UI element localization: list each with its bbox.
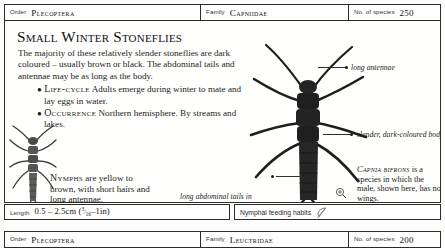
footer-order-cell: Order Plecoptera — [5, 232, 201, 247]
header-order-cell: Order Plecoptera — [5, 5, 201, 20]
family-label: Family — [206, 8, 225, 15]
species-description: Capnia bifrons is a species in which the… — [357, 165, 441, 203]
nymphal-feeding-habits-box: Nymphal feeding habits — [234, 204, 441, 220]
bullet-life-cycle: ● Life-cycle Adults emerge during winter… — [44, 83, 243, 107]
footer-species-count-label: No. of species — [354, 235, 395, 242]
bullet-term-life-cycle: Life-cycle — [44, 83, 90, 94]
leader-dot-tails — [271, 175, 274, 178]
reference-card-page: Order Plecoptera Family Capniidae No. of… — [0, 0, 445, 248]
footer-species-count-value: 200 — [400, 235, 414, 245]
nymph-note: Nymphs are yellow to brown, with short h… — [50, 173, 155, 203]
bullet-list: ● Life-cycle Adults emerge during winter… — [18, 83, 243, 131]
fraction-numerator: 3 — [81, 206, 84, 212]
length-box: Length 0.5 – 2.5cm (3⁄16–1in) — [4, 204, 230, 220]
leader-line-antennae — [318, 67, 346, 68]
header-species-cell: No. of species 250 — [349, 5, 440, 20]
callout-long-antennae: long antennae — [351, 64, 441, 73]
magnifier-icon — [335, 187, 347, 199]
callout-abdominal-tails: long abdominal tails in adults and nymph… — [180, 193, 272, 203]
length-value: 0.5 – 2.5cm (3⁄16–1in) — [35, 206, 110, 218]
header-strip: Order Plecoptera Family Capniidae No. of… — [4, 4, 441, 21]
species-name: Capnia bifrons — [357, 164, 410, 174]
bullet-dot-icon: ● — [37, 109, 42, 118]
length-imperial: –1in) — [91, 206, 110, 216]
footer-family-value: Leuctridae — [230, 235, 273, 245]
order-value: Plecoptera — [31, 8, 74, 18]
order-label: Order — [10, 8, 26, 15]
feather-icon — [316, 207, 327, 218]
leader-dot-antennae — [345, 66, 348, 69]
intro-paragraph: The majority of these relatively slender… — [18, 48, 243, 82]
footer-order-label: Order — [10, 235, 26, 242]
footer-order-value: Plecoptera — [31, 235, 74, 245]
length-metric: 0.5 – 2.5cm ( — [35, 206, 82, 216]
length-label: Length — [10, 209, 30, 216]
footer-species-cell: No. of species 200 — [349, 232, 440, 247]
species-count-label: No. of species — [354, 8, 395, 15]
bullet-dot-icon: ● — [37, 85, 42, 94]
footer-strip: Order Plecoptera Family Leuctridae No. o… — [4, 231, 441, 248]
leader-line-tails — [276, 176, 302, 177]
feeding-habits-label: Nymphal feeding habits — [240, 209, 311, 216]
footer-family-cell: Family Leuctridae — [201, 232, 349, 247]
species-count-value: 250 — [400, 8, 414, 18]
header-family-cell: Family Capniidae — [201, 5, 349, 20]
page-title: Small Winter Stoneflies — [17, 29, 257, 44]
leader-dot-body — [350, 133, 353, 136]
article-body: The majority of these relatively slender… — [18, 48, 243, 131]
leader-line-body — [323, 134, 351, 135]
length-fraction: 3⁄16 — [81, 208, 91, 215]
main-card: Small Winter Stoneflies The majority of … — [4, 21, 441, 203]
footer-family-label: Family — [206, 235, 225, 242]
nymph-note-term: Nymphs — [50, 172, 83, 183]
callout-slender-body: slender, dark-coloured body — [357, 131, 441, 140]
bullet-term-occurrence: Occurrence — [44, 107, 96, 118]
family-value: Capniidae — [230, 8, 268, 18]
fraction-denominator: 16 — [85, 211, 91, 217]
bullet-occurrence: ● Occurrence Northern hemisphere. By str… — [44, 107, 243, 131]
